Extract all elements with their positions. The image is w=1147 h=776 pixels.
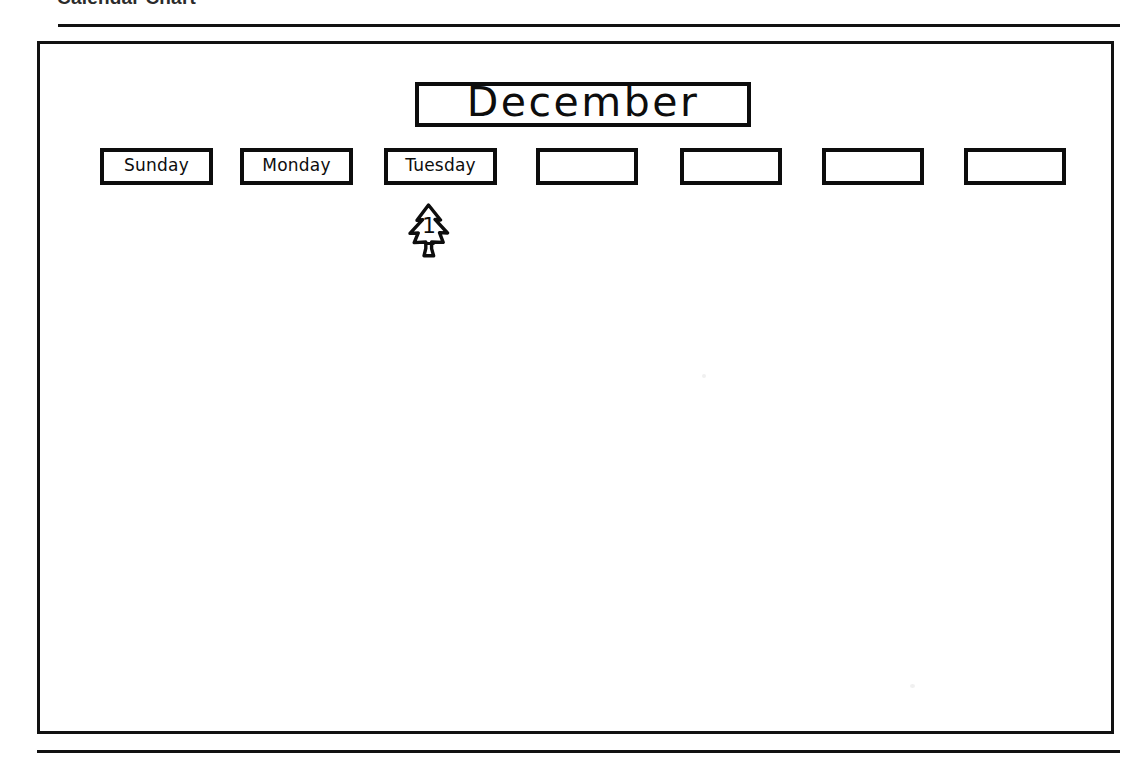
- scan-speckle: [702, 374, 706, 378]
- day-header-box-1[interactable]: Monday: [240, 148, 353, 185]
- day-header-box-3[interactable]: [536, 148, 638, 185]
- day-header-label-2: Tuesday: [405, 157, 476, 174]
- day-header-box-5[interactable]: [822, 148, 924, 185]
- day-header-box-6[interactable]: [964, 148, 1066, 185]
- scan-speckle: [910, 684, 915, 688]
- day-header-label-0: Sunday: [124, 157, 189, 174]
- day-header-box-0[interactable]: Sunday: [100, 148, 213, 185]
- header-divider-rule: [58, 24, 1120, 27]
- day-cell-tuesday[interactable]: 1: [384, 192, 497, 262]
- footer-divider-rule: [37, 750, 1120, 753]
- day-header-label-1: Monday: [262, 157, 330, 174]
- christmas-tree-icon[interactable]: 1: [400, 202, 458, 260]
- month-title-box[interactable]: December: [415, 82, 751, 127]
- day-header-box-4[interactable]: [680, 148, 782, 185]
- day-header-box-2[interactable]: Tuesday: [384, 148, 497, 185]
- month-title-label: December: [467, 82, 700, 123]
- calendar-chart-frame: December Sunday Monday Tuesday: [37, 41, 1114, 734]
- page-title: Calendar Chart: [57, 0, 196, 9]
- day-header-row: Sunday Monday Tuesday: [40, 148, 1111, 188]
